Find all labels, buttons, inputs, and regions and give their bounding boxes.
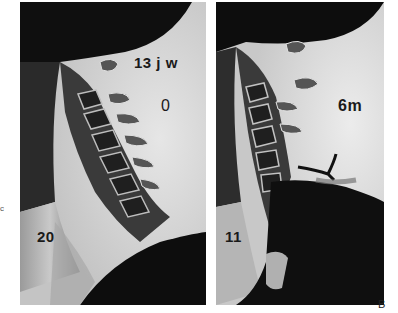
number-label: 20 <box>37 228 55 245</box>
angle-label: 0 <box>161 97 170 115</box>
age-label: 13 j w <box>134 54 178 71</box>
panel-letter: B <box>378 298 385 310</box>
xray-image-right <box>216 2 384 305</box>
xray-image-left <box>20 2 206 305</box>
number-label: 11 <box>225 228 242 245</box>
xray-panel-left: 13 j w 0 20 <box>20 2 206 305</box>
age-label: 6m <box>338 97 362 115</box>
edge-mark: c <box>0 204 4 213</box>
xray-panel-right: 6m 11 <box>216 2 384 305</box>
